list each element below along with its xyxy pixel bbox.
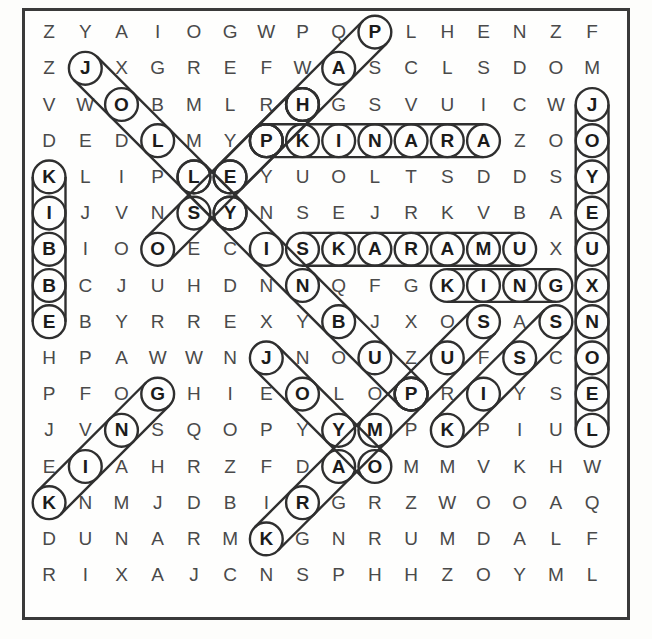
grid-letter: A <box>394 124 428 158</box>
grid-letter: B <box>503 196 537 230</box>
grid-letter: I <box>467 88 501 122</box>
grid-letter: E <box>322 196 356 230</box>
grid-letter: P <box>394 377 428 411</box>
grid-letter: R <box>141 305 175 339</box>
grid-letter: H <box>539 450 573 484</box>
grid-letter: J <box>68 196 102 230</box>
grid-letter: G <box>213 15 247 49</box>
grid-letter: O <box>105 232 139 266</box>
grid-letter: A <box>503 305 537 339</box>
grid-letter: R <box>249 88 283 122</box>
grid-letter: G <box>141 377 175 411</box>
grid-letter: V <box>467 450 501 484</box>
grid-letter: F <box>68 377 102 411</box>
grid-letter: I <box>32 196 66 230</box>
grid-letter: E <box>68 124 102 158</box>
grid-letter: R <box>394 196 428 230</box>
grid-letter: E <box>32 305 66 339</box>
grid-letter: J <box>358 196 392 230</box>
grid-letter: Y <box>503 377 537 411</box>
grid-letter: U <box>68 522 102 556</box>
grid-letter: H <box>177 269 211 303</box>
grid-letter: E <box>575 196 609 230</box>
grid-letter: K <box>32 486 66 520</box>
grid-letter: W <box>177 341 211 375</box>
grid-letter: M <box>467 232 501 266</box>
grid-letter: B <box>141 88 175 122</box>
grid-letter: C <box>539 341 573 375</box>
grid-letter: E <box>467 15 501 49</box>
grid-letter: M <box>575 51 609 85</box>
grid-letter: O <box>358 377 392 411</box>
grid-letter: Q <box>575 486 609 520</box>
grid-letter: X <box>394 305 428 339</box>
grid-letter: A <box>539 196 573 230</box>
grid-letter: W <box>249 15 283 49</box>
grid-letter: S <box>467 51 501 85</box>
grid-letter: M <box>177 88 211 122</box>
grid-letter: F <box>467 341 501 375</box>
grid-letter: J <box>68 51 102 85</box>
grid-letter: N <box>358 124 392 158</box>
grid-letter: Z <box>394 486 428 520</box>
grid-letter: C <box>213 232 247 266</box>
grid-letter: I <box>467 377 501 411</box>
grid-letter: Z <box>539 15 573 49</box>
grid-letter: A <box>503 522 537 556</box>
grid-letter: M <box>213 522 247 556</box>
grid-letter: I <box>249 232 283 266</box>
grid-letter: V <box>32 88 66 122</box>
grid-letter: W <box>430 486 464 520</box>
grid-letter: O <box>358 450 392 484</box>
grid-letter: N <box>105 522 139 556</box>
grid-letter: U <box>430 341 464 375</box>
grid-letter: O <box>177 15 211 49</box>
grid-letter: L <box>177 160 211 194</box>
grid-letter: A <box>322 450 356 484</box>
grid-letter: W <box>539 88 573 122</box>
grid-letter: F <box>249 450 283 484</box>
grid-letter: O <box>539 51 573 85</box>
grid-letter: A <box>358 232 392 266</box>
grid-letter: L <box>575 413 609 447</box>
grid-letter: J <box>105 269 139 303</box>
grid-letter: S <box>503 341 537 375</box>
grid-letter: B <box>68 305 102 339</box>
grid-letter: N <box>286 269 320 303</box>
grid-letter: X <box>249 305 283 339</box>
grid-letter: E <box>249 377 283 411</box>
grid-letter: M <box>105 486 139 520</box>
grid-letter: G <box>394 269 428 303</box>
grid-letter: P <box>286 15 320 49</box>
grid-letter: M <box>539 558 573 592</box>
grid-letter: D <box>213 269 247 303</box>
grid-letter: I <box>105 160 139 194</box>
grid-letter: R <box>286 486 320 520</box>
grid-letter: R <box>430 124 464 158</box>
grid-letter: L <box>322 377 356 411</box>
grid-letter: I <box>213 377 247 411</box>
grid-letter: E <box>213 305 247 339</box>
grid-letter: X <box>105 558 139 592</box>
grid-letter: S <box>286 232 320 266</box>
grid-letter: A <box>141 522 175 556</box>
grid-letter: P <box>32 377 66 411</box>
grid-letter: I <box>249 486 283 520</box>
grid-letter: R <box>32 558 66 592</box>
grid-letter: J <box>177 558 211 592</box>
grid-letter: M <box>430 450 464 484</box>
grid-letter: Q <box>322 15 356 49</box>
grid-letter: G <box>322 486 356 520</box>
grid-letter: F <box>358 269 392 303</box>
grid-letter: O <box>105 377 139 411</box>
grid-letter: N <box>286 341 320 375</box>
grid-letter: S <box>539 377 573 411</box>
grid-letter: R <box>177 51 211 85</box>
grid-letter: K <box>503 450 537 484</box>
grid-letter: Z <box>32 15 66 49</box>
grid-letter: U <box>394 522 428 556</box>
grid-letter: L <box>68 160 102 194</box>
grid-letter: J <box>249 341 283 375</box>
grid-letter: Y <box>213 196 247 230</box>
grid-letter: W <box>141 341 175 375</box>
